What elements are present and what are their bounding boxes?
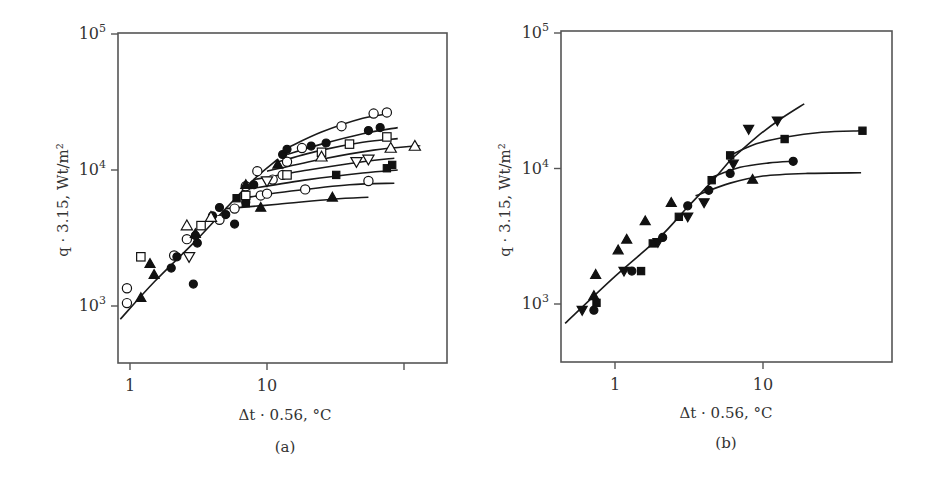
filled-triangle-marker (149, 270, 159, 279)
x-tick-label: 10 (257, 376, 277, 395)
panel-b-chart: 103104105110 Δt · 0.56, °C (b) q · 3.15,… (496, 21, 892, 452)
filled-triangle-down-marker (744, 125, 754, 134)
filled-square-marker (593, 299, 600, 306)
y-tick-label: 105 (79, 22, 106, 43)
filled-circle-marker (173, 253, 181, 261)
filled-circle-marker (376, 124, 384, 132)
filled-square-marker (859, 127, 866, 134)
panel-a-frame (118, 33, 447, 363)
filled-square-marker (781, 135, 788, 142)
filled-square-marker (727, 152, 734, 159)
y-tick-label: 103 (522, 292, 549, 313)
x-tick-label: 1 (125, 376, 135, 395)
open-circle-marker (369, 109, 378, 118)
panel-b-fit-curves (565, 104, 861, 323)
x-tick-label: 1 (610, 375, 620, 394)
open-circle-marker (337, 122, 346, 131)
open-triangle-marker (181, 220, 192, 230)
open-circle-marker (262, 189, 271, 198)
panel-a-chart: 103104105110 Δt · 0.56, °C (a) q · 3.15,… (54, 22, 447, 456)
open-square-marker (197, 221, 205, 229)
filled-triangle-marker (327, 192, 337, 201)
open-circle-marker (230, 204, 239, 213)
y-tick-label: 104 (522, 157, 549, 178)
open-circle-marker (364, 176, 373, 185)
filled-circle-marker (215, 203, 223, 211)
y-tick-label: 103 (79, 294, 106, 315)
filled-triangle-marker (145, 259, 155, 268)
filled-triangle-marker (256, 202, 266, 211)
filled-triangle-down-marker (683, 213, 693, 222)
panel-b-y-axis-label: q · 3.15, Wt/m² (496, 143, 514, 257)
filled-triangle-marker (613, 245, 623, 254)
open-square-marker (283, 171, 291, 179)
filled-circle-marker (590, 306, 598, 314)
y-tick-label: 104 (79, 158, 106, 179)
open-circle-marker (122, 299, 131, 308)
open-circle-marker (253, 167, 262, 176)
panel-b-markers (577, 117, 866, 315)
filled-square-marker (389, 161, 396, 168)
open-square-marker (383, 133, 391, 141)
filled-triangle-marker (622, 234, 632, 243)
filled-square-marker (333, 171, 340, 178)
fit-curve-open-square (278, 139, 398, 162)
panel-a-ticks: 103104105110 (79, 22, 404, 395)
fit-curve-filled-triangle (696, 173, 862, 196)
filled-circle-marker (307, 142, 315, 150)
open-square-marker (345, 140, 353, 148)
filled-circle-marker (364, 127, 372, 135)
filled-circle-marker (705, 186, 713, 194)
filled-circle-marker (167, 264, 175, 272)
panel-a-fit-curves (120, 114, 419, 320)
filled-triangle-down-marker (699, 199, 709, 208)
panel-b-ticks: 103104105110 (522, 21, 774, 394)
filled-triangle-marker (591, 270, 601, 279)
filled-circle-marker (283, 145, 291, 153)
open-circle-marker (182, 235, 191, 244)
panel-b-caption: (b) (715, 434, 736, 452)
filled-circle-marker (189, 280, 197, 288)
open-square-marker (242, 191, 250, 199)
filled-square-marker (637, 267, 644, 274)
filled-square-marker (675, 213, 682, 220)
filled-circle-marker (789, 157, 797, 165)
panel-a-x-axis-label: Δt · 0.56, °C (238, 406, 331, 424)
filled-circle-marker (222, 211, 230, 219)
filled-circle-marker (193, 239, 201, 247)
panel-a-markers (122, 108, 420, 308)
x-tick-label: 10 (753, 375, 773, 394)
panel-a-caption: (a) (275, 438, 296, 456)
filled-triangle-marker (666, 198, 676, 207)
filled-square-marker (233, 195, 240, 202)
open-square-marker (137, 253, 145, 261)
figure: 103104105110 Δt · 0.56, °C (a) q · 3.15,… (0, 0, 931, 483)
fit-curve-filled-triangle-down (730, 104, 804, 160)
filled-square-marker (708, 177, 715, 184)
y-tick-label: 105 (522, 21, 549, 42)
filled-circle-marker (231, 220, 239, 228)
panel-b-frame (561, 31, 892, 362)
open-triangle-down-marker (183, 253, 194, 263)
open-circle-marker (382, 108, 391, 117)
open-circle-marker (297, 143, 306, 152)
open-circle-marker (301, 185, 310, 194)
open-circle-marker (122, 284, 131, 293)
filled-circle-marker (322, 139, 330, 147)
panel-a-y-axis-label: q · 3.15, Wt/m² (54, 143, 72, 257)
filled-square-marker (242, 200, 249, 207)
filled-circle-marker (726, 169, 734, 177)
filled-triangle-marker (640, 216, 650, 225)
filled-triangle-marker (136, 293, 146, 302)
filled-circle-marker (684, 202, 692, 210)
panel-b-x-axis-label: Δt · 0.56, °C (679, 404, 772, 422)
